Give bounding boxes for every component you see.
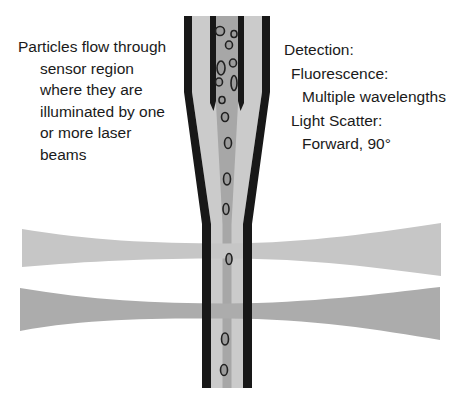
note-line: beams: [18, 144, 208, 166]
particle: [223, 204, 229, 215]
particle: [216, 78, 223, 86]
particle: [226, 254, 232, 265]
particle: [216, 27, 225, 36]
sensor-region-note: Particles flow through sensor region whe…: [18, 36, 208, 165]
detection-fluorescence-detail: Multiple wavelengths: [284, 85, 454, 109]
detection-scatter-detail: Forward, 90°: [284, 132, 454, 156]
note-line: sensor region: [18, 58, 208, 80]
detection-fluorescence-label: Fluorescence:: [284, 62, 454, 86]
particle: [222, 333, 229, 345]
note-line: or more laser: [18, 122, 208, 144]
particle: [222, 113, 229, 122]
injector-tube-wall-right: [238, 16, 244, 111]
detection-title: Detection:: [284, 38, 454, 62]
flow-cytometry-diagram: Particles flow through sensor region whe…: [0, 0, 458, 411]
particle: [230, 59, 237, 67]
particle: [225, 138, 232, 149]
note-line: where they are: [18, 79, 208, 101]
particle: [226, 41, 233, 49]
detection-panel: Detection: Fluorescence: Multiple wavele…: [284, 38, 454, 156]
particle: [224, 173, 231, 185]
particle: [221, 365, 228, 376]
particle: [231, 31, 237, 38]
detection-scatter-label: Light Scatter:: [284, 109, 454, 133]
particle: [219, 97, 225, 104]
particle: [217, 61, 225, 75]
note-line: illuminated by one: [18, 101, 208, 123]
particle: [231, 76, 237, 91]
note-line: Particles flow through: [18, 36, 208, 58]
